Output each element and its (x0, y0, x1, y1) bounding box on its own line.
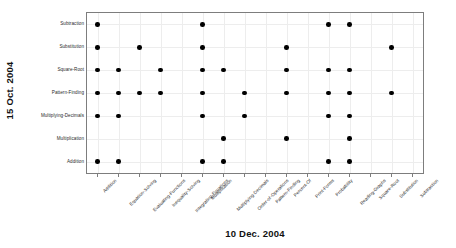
data-point (284, 136, 289, 141)
x-axis-tick-mark (139, 174, 140, 177)
data-point (242, 91, 247, 96)
x-axis-tick-mark (118, 174, 119, 177)
data-point (200, 114, 205, 119)
x-axis-tick-mark (265, 174, 266, 177)
x-axis-tick-mark (244, 174, 245, 177)
y-axis-tick-label: Subtraction (60, 21, 84, 26)
data-point (347, 68, 352, 73)
x-axis-tick-label: Subtraction (418, 178, 438, 198)
data-point (284, 68, 289, 73)
y-axis-tick-labels: SubtractionSubstitutionSquare-RootPatter… (18, 12, 84, 174)
x-axis-tick-label: Print-Forms (314, 178, 335, 199)
data-point (326, 91, 331, 96)
x-axis-tick-label: Substitution (398, 178, 419, 199)
gridline-horizontal (87, 70, 423, 71)
y-axis-title: 15 Oct. 2004 (0, 0, 20, 180)
data-point (221, 68, 226, 73)
data-point (347, 91, 352, 96)
gridline-horizontal (87, 24, 423, 25)
data-point (200, 91, 205, 96)
plot-area (86, 12, 424, 174)
data-point (389, 45, 394, 50)
data-point (221, 159, 226, 164)
gridline-horizontal (87, 139, 423, 140)
data-point (158, 91, 163, 96)
x-axis-tick-labels: AdditionEquation-SolvingEvaluating-Funct… (86, 174, 424, 228)
data-point (95, 22, 100, 27)
data-point (389, 91, 394, 96)
data-point (95, 91, 100, 96)
data-point (116, 114, 121, 119)
data-point (284, 91, 289, 96)
y-axis-tick-label: Multiplying-Decimals (41, 112, 84, 117)
data-point (137, 45, 142, 50)
data-point (137, 91, 142, 96)
y-axis-tick-label: Multiplication (57, 135, 84, 140)
x-axis-tick-mark (181, 174, 182, 177)
x-axis-tick-mark (97, 174, 98, 177)
data-point (200, 45, 205, 50)
y-axis-tick-label: Square-Root (57, 67, 84, 72)
data-point (347, 159, 352, 164)
x-axis-tick-mark (370, 174, 371, 177)
data-point (116, 91, 121, 96)
x-axis-tick-label: Equation-Solving (128, 178, 157, 207)
x-axis-tick-label: Addition (101, 178, 117, 194)
gridline-horizontal (87, 162, 423, 163)
data-point (326, 159, 331, 164)
x-axis-tick-mark (286, 174, 287, 177)
x-axis-tick-mark (160, 174, 161, 177)
data-point (116, 159, 121, 164)
data-point (95, 159, 100, 164)
data-point (95, 45, 100, 50)
data-point (326, 22, 331, 27)
y-axis-tick-label: Substitution (59, 44, 84, 49)
data-point (200, 68, 205, 73)
data-point (95, 68, 100, 73)
gridline-horizontal (87, 116, 423, 117)
x-axis-tick-mark (202, 174, 203, 177)
data-point (347, 22, 352, 27)
x-axis-tick-mark (412, 174, 413, 177)
data-point (116, 68, 121, 73)
data-point (200, 159, 205, 164)
data-point (284, 45, 289, 50)
y-axis-tick-label: Pattern-Finding (52, 90, 84, 95)
data-point (242, 114, 247, 119)
data-point (347, 114, 352, 119)
y-axis-tick-label: Addition (67, 158, 84, 163)
x-axis-tick-mark (349, 174, 350, 177)
x-axis-tick-mark (223, 174, 224, 177)
x-axis-tick-mark (391, 174, 392, 177)
dot-matrix-chart: 15 Oct. 2004 SubtractionSubstitutionSqua… (0, 0, 456, 248)
x-axis-tick-mark (328, 174, 329, 177)
x-axis-title: 10 Dec. 2004 (86, 228, 424, 239)
data-point (326, 68, 331, 73)
y-axis-title-text: 15 Oct. 2004 (5, 61, 16, 119)
data-point (95, 114, 100, 119)
data-point (221, 136, 226, 141)
data-point (347, 136, 352, 141)
data-point (326, 114, 331, 119)
data-point (200, 22, 205, 27)
x-axis-tick-mark (307, 174, 308, 177)
data-point (158, 68, 163, 73)
x-axis-tick-label: Probability (334, 178, 353, 197)
